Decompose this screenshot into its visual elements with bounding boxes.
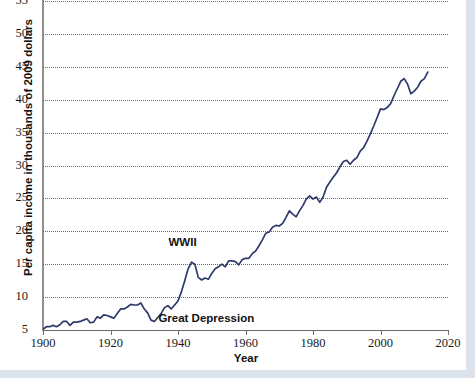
x-axis-tick <box>381 330 382 335</box>
x-axis-tick-label: 1980 <box>288 336 338 351</box>
x-axis-tick <box>178 330 179 335</box>
annotation-wwii: WWII <box>169 236 197 248</box>
x-axis-tick <box>111 330 112 335</box>
x-axis-tick <box>43 330 44 335</box>
y-axis-tick-label: 15 <box>0 256 28 271</box>
x-axis-tick-label: 1900 <box>18 336 68 351</box>
x-axis-tick-label: 1920 <box>86 336 136 351</box>
annotation-great-depression: Great Depression <box>158 312 254 324</box>
chart-card: Per capita income in thousands of 2009 d… <box>0 0 466 370</box>
y-axis-tick-label: 5 <box>0 322 28 337</box>
x-axis-title: Year <box>43 352 449 364</box>
y-axis-tick-label: 20 <box>0 223 28 238</box>
x-axis-tick <box>448 330 449 335</box>
x-axis-tick-label: 1940 <box>153 336 203 351</box>
y-axis-tick-label: 45 <box>0 59 28 74</box>
y-axis-tick-label: 35 <box>0 125 28 140</box>
chart-page: Per capita income in thousands of 2009 d… <box>0 0 475 378</box>
plot-area <box>43 1 448 330</box>
x-axis-tick-label: 2020 <box>423 336 473 351</box>
y-axis-tick-label: 30 <box>0 158 28 173</box>
x-axis-tick-label: 1960 <box>221 336 271 351</box>
x-axis-tick <box>246 330 247 335</box>
x-axis-tick-label: 2000 <box>356 336 406 351</box>
y-axis-tick-label: 50 <box>0 26 28 41</box>
y-axis-tick-label: 40 <box>0 92 28 107</box>
income-line-series <box>43 1 448 330</box>
y-axis-tick-label: 10 <box>0 289 28 304</box>
x-axis-tick <box>313 330 314 335</box>
y-axis-tick-label: 55 <box>0 0 28 8</box>
y-axis-tick-label: 25 <box>0 190 28 205</box>
